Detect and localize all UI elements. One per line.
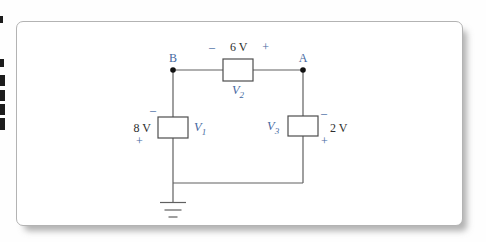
page-edge-text-fragment bbox=[0, 16, 3, 23]
v3-minus-sign: – bbox=[321, 107, 327, 119]
page-edge-text-fragment bbox=[0, 104, 5, 115]
element-box-v1 bbox=[158, 117, 188, 138]
v1-value: 8 V bbox=[123, 122, 151, 134]
page: B A – 6 V + V2 – 8 V + V1 V3 – 2 V + bbox=[0, 0, 486, 242]
v2-plus-sign: + bbox=[262, 40, 269, 55]
page-edge-text-fragment bbox=[0, 59, 4, 67]
v3-label: V3 bbox=[267, 120, 279, 137]
v1-label: V1 bbox=[194, 121, 206, 138]
node-label-a: A bbox=[295, 52, 311, 64]
ground-symbol bbox=[160, 203, 186, 218]
element-box-v3 bbox=[288, 116, 318, 136]
v1-minus-sign: – bbox=[150, 104, 156, 116]
element-box-v2 bbox=[223, 59, 253, 81]
page-edge-text-fragment bbox=[0, 118, 5, 130]
v2-label: V2 bbox=[223, 84, 253, 101]
v2-polarity-row: – 6 V + bbox=[209, 41, 269, 53]
node-dot-a bbox=[300, 67, 306, 73]
node-dot-b bbox=[170, 67, 176, 73]
node-label-b: B bbox=[165, 52, 181, 64]
v3-value: 2 V bbox=[330, 122, 347, 134]
v1-plus-sign: + bbox=[136, 135, 143, 147]
figure-panel: B A – 6 V + V2 – 8 V + V1 V3 – 2 V + bbox=[16, 21, 463, 226]
page-edge-text-fragment bbox=[0, 75, 5, 86]
v2-value: 6 V bbox=[230, 41, 247, 53]
v2-minus-sign: – bbox=[209, 40, 215, 55]
v3-plus-sign: + bbox=[321, 135, 328, 147]
page-edge-text-fragment bbox=[0, 90, 5, 101]
